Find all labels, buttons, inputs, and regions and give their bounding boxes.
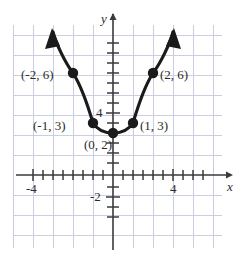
point-label-1-3: (1, 3) — [140, 119, 168, 132]
data-point — [128, 118, 138, 128]
x-axis-label: x — [227, 180, 233, 193]
data-point — [68, 68, 78, 78]
y-tick-label-neg2: -2 — [90, 190, 101, 203]
point-label-neg2-6: (-2, 6) — [21, 68, 54, 81]
y-axis-arrowhead — [110, 13, 117, 20]
point-label-neg1-3: (-1, 3) — [33, 119, 66, 132]
graph-figure: (-2, 6) (-1, 3) (0, 2) (1, 3) (2, 6) -4 … — [0, 0, 239, 253]
point-label-2-6: (2, 6) — [160, 68, 188, 81]
y-tick-label-4: 4 — [96, 106, 103, 119]
y-axis-label: y — [101, 12, 107, 25]
data-point — [148, 68, 158, 78]
x-tick-label-4: 4 — [170, 182, 177, 195]
grid-lines — [13, 25, 222, 248]
curve-arrowhead-left — [45, 28, 60, 49]
x-axis-arrowhead — [226, 172, 233, 179]
curve-arrowhead-right — [166, 28, 181, 49]
point-label-0-2: (0, 2) — [84, 138, 112, 151]
x-tick-label-neg4: -4 — [26, 182, 37, 195]
